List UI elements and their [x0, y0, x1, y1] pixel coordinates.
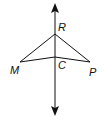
geometry-diagram: R C M P: [0, 0, 104, 119]
label-m: M: [10, 64, 20, 76]
label-r: R: [58, 21, 66, 33]
label-c: C: [58, 59, 66, 71]
label-p: P: [89, 66, 97, 78]
